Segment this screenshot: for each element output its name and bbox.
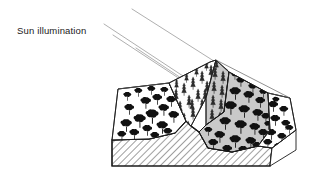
sun-illumination-label: Sun illumination (17, 26, 86, 36)
figure-canvas: Sun illumination (0, 0, 312, 187)
